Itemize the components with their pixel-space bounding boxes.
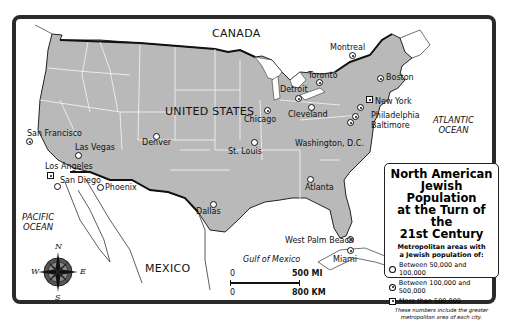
- city-west-palm-beach: West Palm Beach: [285, 237, 354, 245]
- scale-bar: 0 500 MI 0 800 KM: [230, 268, 312, 298]
- pacific-ocean-label: PACIFICOCEAN: [22, 213, 54, 233]
- city-toronto: Toronto: [308, 72, 338, 80]
- compass-w: W: [31, 268, 39, 276]
- city-marker-phoenix: [97, 184, 104, 191]
- city-san-francisco: San Francisco: [27, 130, 82, 138]
- city-miami: Miami: [333, 256, 357, 264]
- legend-subtitle: Metropolitan areas witha Jewish populati…: [389, 243, 494, 259]
- city-montreal: Montreal: [330, 44, 365, 52]
- city-marker-atlanta: [307, 176, 314, 183]
- legend-item-small: Between 50,000 and 100,000: [389, 261, 494, 277]
- compass-e: E: [80, 268, 86, 276]
- city-detroit: Detroit: [280, 86, 308, 94]
- city-marker-philadelphia: [357, 104, 364, 111]
- city-marker-detroit: [295, 95, 302, 102]
- atlantic-ocean-label: ATLANTICOCEAN: [433, 116, 474, 136]
- city-marker-los-angeles: [47, 172, 54, 179]
- compass-n: N: [55, 243, 62, 251]
- city-denver: Denver: [142, 139, 171, 147]
- city-baltimore: Baltimore: [371, 122, 410, 130]
- city-st-louis: St. Louis: [228, 148, 262, 156]
- city-philadelphia: Philadelphia: [371, 112, 420, 120]
- city-marker-boston: [377, 75, 384, 82]
- dotted-square-icon: [389, 298, 396, 305]
- city-cleveland: Cleveland: [288, 111, 328, 119]
- city-marker-st-louis: [251, 139, 258, 146]
- city-phoenix: Phoenix: [105, 184, 137, 192]
- dotted-circle-icon: [389, 284, 396, 291]
- city-marker-baltimore: [352, 113, 359, 120]
- city-new-york: New York: [375, 98, 412, 106]
- city-marker-las-vegas: [75, 152, 82, 159]
- city-marker-new-york: [366, 96, 373, 103]
- open-circle-icon: [389, 266, 396, 273]
- city-los-angeles: Los Angeles: [45, 163, 93, 171]
- city-washington: Washington, D.C.: [295, 140, 364, 148]
- city-dallas: Dallas: [196, 208, 221, 216]
- legend-item-medium: Between 100,000 and 500,000: [389, 279, 494, 295]
- compass-rose-icon: [38, 252, 78, 292]
- city-marker-montreal: [349, 52, 356, 59]
- city-boston: Boston: [386, 74, 414, 82]
- city-marker-san-francisco: [26, 138, 33, 145]
- united-states-shape: [38, 34, 412, 238]
- mexico-label: MEXICO: [145, 263, 190, 274]
- city-marker-washington: [347, 119, 354, 126]
- gulf-label: Gulf of Mexico: [243, 256, 300, 264]
- city-san-diego: San Diego: [60, 177, 101, 185]
- city-marker-miami: [347, 247, 354, 254]
- legend-box: North American Jewish Population at the …: [384, 163, 499, 278]
- city-atlanta: Atlanta: [305, 184, 334, 192]
- compass-s: S: [55, 294, 60, 302]
- united-states-label: UNITED STATES: [165, 106, 254, 117]
- legend-note: These numbers include the greatermetropo…: [389, 307, 494, 320]
- city-marker-chicago: [264, 107, 271, 114]
- city-marker-toronto: [316, 79, 323, 86]
- legend-item-large: More than 500,000: [389, 297, 494, 305]
- legend-title: North American Jewish Population at the …: [389, 168, 494, 240]
- city-chicago: Chicago: [244, 116, 276, 124]
- city-las-vegas: Las Vegas: [75, 144, 115, 152]
- canada-label: CANADA: [212, 28, 261, 39]
